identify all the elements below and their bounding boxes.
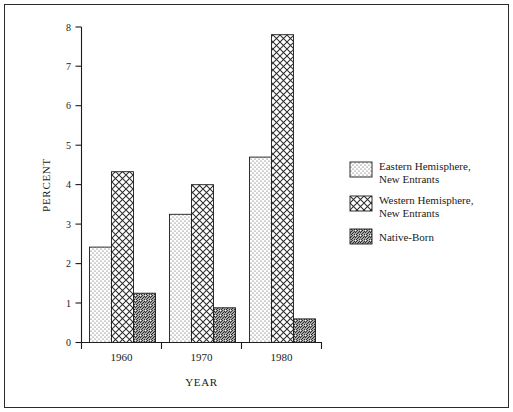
- bar-1960-western-hemisphere: [112, 172, 134, 343]
- y-tick-label-8: 8: [66, 22, 71, 33]
- x-tick-label-1960: 1960: [111, 351, 134, 363]
- y-tick-label-1: 1: [66, 298, 71, 309]
- bar-group-1980: [250, 35, 316, 343]
- legend-label-western-line2: New Entrants: [379, 207, 439, 219]
- y-tick-label-0: 0: [66, 337, 71, 348]
- bar-group-1960: [90, 172, 156, 343]
- chart-legend: Eastern Hemisphere, New Entrants Western…: [350, 160, 474, 245]
- y-tick-label-3: 3: [66, 219, 71, 230]
- legend-label-native-born: Native-Born: [379, 231, 434, 243]
- x-tick-label-1980: 1980: [271, 351, 294, 363]
- bar-chart: 0 1 2 3 4 5 6 7 8 PERCENT 1960 1970 1980…: [0, 0, 513, 412]
- y-tick-label-6: 6: [66, 100, 71, 111]
- bar-1980-eastern-hemisphere: [250, 157, 272, 342]
- x-tick-label-1970: 1970: [191, 351, 214, 363]
- bar-1970-native-born: [214, 308, 236, 343]
- bar-1960-native-born: [134, 293, 156, 342]
- bar-1960-eastern-hemisphere: [90, 247, 112, 342]
- dots-swatch: [350, 162, 372, 177]
- legend-item-native-born[interactable]: Native-Born: [350, 229, 434, 244]
- bar-1980-western-hemisphere: [272, 35, 294, 343]
- legend-label-western-line1: Western Hemisphere,: [379, 194, 474, 206]
- y-tick-label-4: 4: [66, 179, 71, 190]
- y-axis: 0 1 2 3 4 5 6 7 8 PERCENT: [40, 22, 82, 349]
- bar-group-1970: [170, 185, 236, 343]
- legend-item-western-hemisphere[interactable]: Western Hemisphere, New Entrants: [350, 194, 474, 219]
- bar-1980-native-born: [294, 319, 316, 343]
- legend-label-eastern-line2: New Entrants: [379, 173, 439, 185]
- x-axis-title: YEAR: [185, 376, 218, 388]
- bar-1970-western-hemisphere: [192, 185, 214, 343]
- y-tick-label-5: 5: [66, 140, 71, 151]
- y-tick-label-7: 7: [66, 61, 71, 72]
- x-axis: 1960 1970 1980 YEAR: [82, 343, 323, 389]
- crosshatch-swatch: [350, 196, 372, 211]
- diagonal-swatch: [350, 229, 372, 244]
- figure-container: 0 1 2 3 4 5 6 7 8 PERCENT 1960 1970 1980…: [0, 0, 513, 412]
- y-tick-label-2: 2: [66, 258, 71, 269]
- y-axis-title: PERCENT: [40, 158, 52, 212]
- legend-label-eastern-line1: Eastern Hemisphere,: [379, 160, 471, 172]
- bar-1970-eastern-hemisphere: [170, 214, 192, 342]
- legend-item-eastern-hemisphere[interactable]: Eastern Hemisphere, New Entrants: [350, 160, 471, 185]
